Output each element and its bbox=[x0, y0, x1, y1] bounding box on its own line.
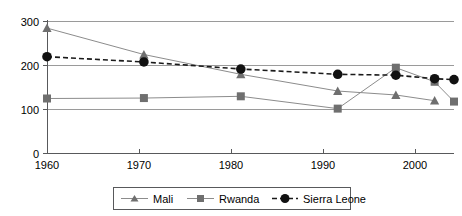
y-tick-label-300: 300 bbox=[21, 16, 39, 28]
series-layer bbox=[42, 24, 459, 113]
y-tick-label-100: 100 bbox=[21, 104, 39, 116]
x-tick-label-2000: 2000 bbox=[403, 159, 427, 171]
triangle-marker-icon bbox=[139, 50, 148, 59]
circle-marker-icon bbox=[236, 64, 246, 74]
x-tick-label-1980: 1980 bbox=[219, 159, 243, 171]
triangle-marker-icon bbox=[42, 24, 51, 33]
legend-label-rwanda: Rwanda bbox=[219, 193, 260, 205]
square-marker-icon bbox=[237, 92, 245, 100]
x-tick-label-1990: 1990 bbox=[311, 159, 335, 171]
circle-marker-icon bbox=[449, 75, 459, 85]
chart-legend: Mali Rwanda Sierra Leone bbox=[114, 188, 367, 210]
square-marker-icon bbox=[140, 94, 148, 102]
x-axis-labels: 1960 1970 1980 1990 2000 bbox=[35, 159, 427, 171]
x-tick-label-1970: 1970 bbox=[127, 159, 151, 171]
square-marker-icon bbox=[197, 195, 204, 202]
circle-marker-icon bbox=[281, 194, 290, 203]
circle-marker-icon bbox=[391, 70, 401, 80]
circle-marker-icon bbox=[139, 57, 149, 67]
y-tick-label-200: 200 bbox=[21, 60, 39, 72]
legend-item-sierra-leone[interactable]: Sierra Leone bbox=[272, 193, 366, 205]
circle-marker-icon bbox=[430, 74, 440, 84]
circle-marker-icon bbox=[333, 70, 343, 80]
legend-label-sierra-leone: Sierra Leone bbox=[303, 193, 366, 205]
square-marker-icon bbox=[334, 105, 342, 113]
y-tick-label-0: 0 bbox=[33, 148, 39, 160]
circle-marker-icon bbox=[42, 52, 52, 62]
axes bbox=[43, 20, 454, 154]
y-axis-labels: 300 200 100 0 bbox=[21, 16, 39, 160]
square-marker-icon bbox=[43, 95, 51, 103]
x-tick-label-1960: 1960 bbox=[35, 159, 59, 171]
line-chart: 300 200 100 0 1960 1970 1980 1990 2000 M… bbox=[0, 0, 462, 216]
chart-canvas: 300 200 100 0 1960 1970 1980 1990 2000 M… bbox=[0, 0, 462, 216]
legend-label-mali: Mali bbox=[153, 193, 173, 205]
square-marker-icon bbox=[450, 98, 458, 106]
